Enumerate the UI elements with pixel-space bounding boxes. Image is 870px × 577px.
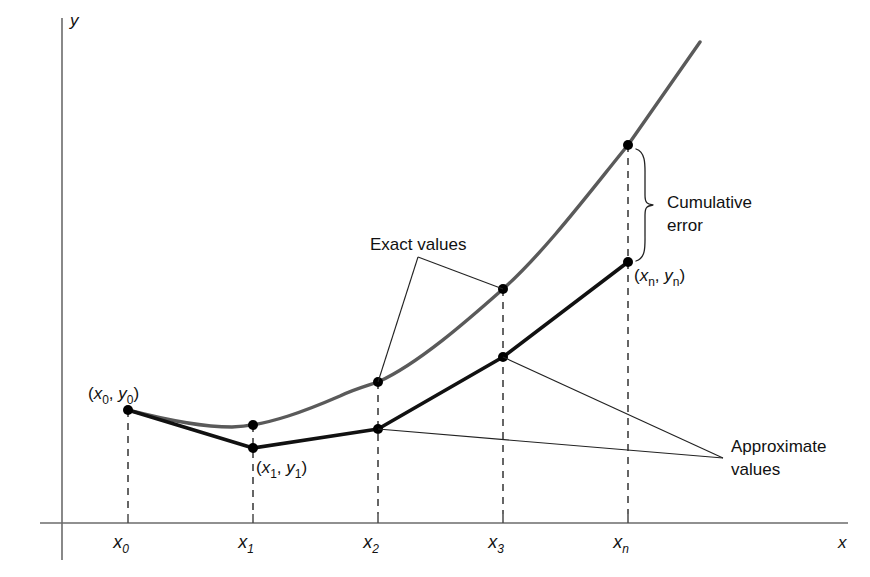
x-axis-label: x bbox=[837, 533, 847, 552]
figure-canvas: x0 x1 x2 x3 xn y x (x0, y0) (x1, y1) bbox=[0, 0, 870, 577]
axes-group bbox=[40, 18, 848, 560]
approx-point-xn bbox=[623, 257, 633, 267]
x-ticks-group bbox=[128, 514, 628, 523]
callout-exact-values: Exact values bbox=[370, 235, 466, 254]
point-label-x0y0: (x0, y0) bbox=[88, 384, 139, 407]
tick-label-x3: x3 bbox=[487, 532, 504, 556]
approximate-value-points bbox=[248, 257, 633, 453]
exact-point-x1 bbox=[248, 420, 258, 430]
brace-path bbox=[636, 149, 653, 261]
euler-error-figure: x0 x1 x2 x3 xn y x (x0, y0) (x1, y1) bbox=[0, 0, 870, 577]
drop-lines-group bbox=[128, 145, 628, 514]
callout-cumulative-error-line1: Cumulative bbox=[667, 193, 752, 212]
callout-cumulative-error-line2: error bbox=[667, 216, 703, 235]
exact-leader-to-x3 bbox=[418, 257, 503, 289]
x-tick-labels: x0 x1 x2 x3 xn bbox=[112, 532, 629, 556]
exact-point-xn bbox=[623, 140, 633, 150]
tick-label-x1: x1 bbox=[237, 532, 254, 556]
tick-label-xn: xn bbox=[612, 532, 629, 556]
approximate-solution-polyline bbox=[128, 262, 628, 448]
callout-approximate-values-line2: values bbox=[731, 460, 780, 479]
point-label-x1y1: (x1, y1) bbox=[256, 458, 307, 481]
approx-leader-to-x2 bbox=[378, 429, 723, 458]
approx-point-x1 bbox=[248, 443, 258, 453]
approximate-values-leaders bbox=[378, 357, 723, 458]
callout-approximate-values-line1: Approximate bbox=[731, 437, 826, 456]
tick-label-x0: x0 bbox=[112, 532, 129, 556]
point-label-xnyn: (xn, yn) bbox=[634, 266, 685, 289]
cumulative-error-brace bbox=[636, 149, 653, 261]
y-axis-label: y bbox=[69, 11, 80, 30]
tick-label-x2: x2 bbox=[362, 532, 379, 556]
exact-values-leaders bbox=[378, 257, 503, 382]
approx-leader-to-x3 bbox=[503, 357, 723, 458]
exact-value-points bbox=[123, 140, 633, 430]
